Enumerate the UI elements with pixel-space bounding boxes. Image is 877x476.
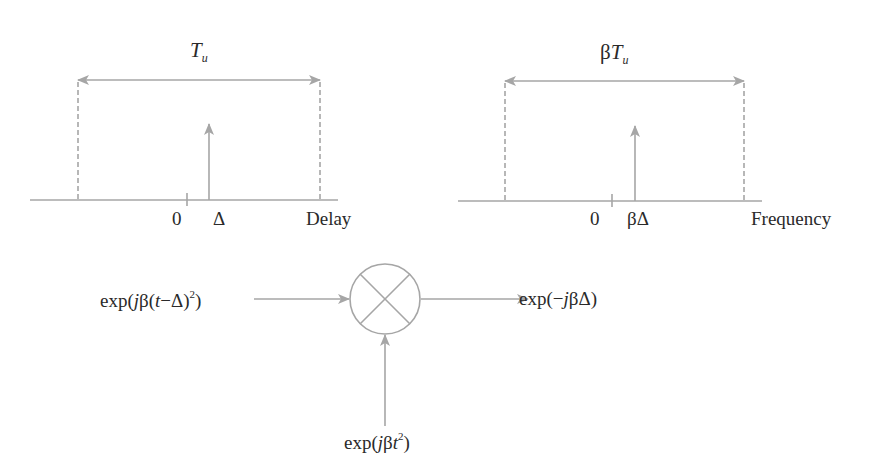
expr-part: exp(−: [519, 288, 563, 309]
frequency-axis-label: Frequency: [751, 209, 831, 228]
frequency-span-label: βTu: [600, 42, 628, 63]
span-subscript: u: [202, 51, 208, 65]
expr-part: ): [404, 432, 410, 453]
span-symbol: T: [190, 38, 202, 62]
expr-part: exp(: [100, 290, 134, 311]
span-subscript: u: [622, 53, 628, 67]
frequency-impulse-label: βΔ: [627, 209, 649, 228]
expr-part: exp(: [344, 432, 378, 453]
expr-part: β(: [139, 290, 155, 311]
expr-part: βΔ): [569, 288, 597, 309]
frequency-tick-zero-label: 0: [590, 209, 600, 228]
frequency-plot: [458, 81, 762, 207]
span-prefix: β: [600, 40, 611, 64]
delay-tick-zero-label: 0: [172, 209, 182, 228]
mixer-input-bottom-label: exp(jβt2): [344, 433, 410, 452]
span-symbol: T: [611, 40, 623, 64]
mixer-block: [254, 264, 528, 426]
delay-span-label: Tu: [190, 40, 208, 61]
expr-part: −Δ): [160, 290, 189, 311]
expr-exponent: 2: [190, 288, 196, 300]
delay-impulse-label: Δ: [213, 209, 225, 228]
delay-axis-label: Delay: [306, 209, 351, 228]
expr-exponent: 2: [398, 430, 404, 442]
diagram-canvas: [0, 0, 877, 476]
delay-plot: [30, 80, 338, 206]
expr-part: ): [195, 290, 201, 311]
expr-part: β: [383, 432, 393, 453]
mixer-output-label: exp(−jβΔ): [519, 289, 597, 308]
mixer-input-left-label: exp(jβ(t−Δ)2): [100, 291, 201, 310]
